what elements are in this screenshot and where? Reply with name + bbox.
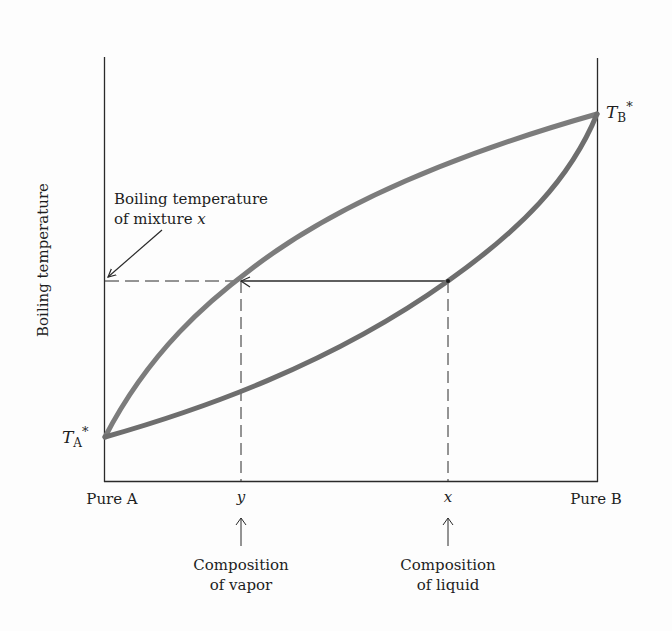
annotation-line2: of mixture x	[114, 210, 206, 228]
vapor-caption-line2: of vapor	[210, 576, 273, 594]
axes	[104, 57, 598, 482]
liquid-caption-line1: Composition	[400, 556, 496, 574]
pure-b-label: Pure B	[570, 490, 622, 508]
guide-lines	[105, 281, 448, 481]
liquid-point	[446, 279, 450, 283]
annotation-arrow	[108, 230, 162, 277]
x-marker-label: x	[444, 488, 453, 506]
tb-star-label: TB*	[606, 99, 633, 125]
pure-a-label: Pure A	[86, 490, 138, 508]
ta-star-label: TA*	[62, 424, 89, 450]
boiling-point-diagram: Boiling temperature of mixture x Boiling…	[0, 0, 672, 631]
y-marker-label: y	[236, 488, 246, 506]
liquid-caption-line2: of liquid	[417, 576, 480, 594]
vapor-caption-line1: Composition	[193, 556, 289, 574]
annotation-line1: Boiling temperature	[114, 190, 268, 208]
phase-curves	[105, 114, 597, 437]
liquid-curve	[105, 114, 597, 437]
up-arrows	[236, 518, 453, 546]
liquid-up-arrow-icon	[443, 518, 453, 546]
tie-line-markers	[241, 277, 450, 287]
vapor-curve	[105, 114, 597, 437]
y-axis-label: Boiling temperature	[34, 183, 52, 337]
vapor-up-arrow-icon	[236, 518, 246, 546]
